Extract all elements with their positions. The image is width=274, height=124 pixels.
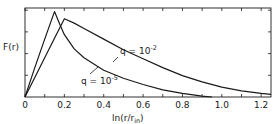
chart: 00.20.40.60.81.01.2 F(r) ln(r/rin) q = 1… [0, 0, 274, 124]
series-label-q5-base: q = 10 [81, 76, 112, 86]
x-tick-label: 0.2 [57, 100, 71, 110]
x-axis-label: ln(r/rin) [112, 113, 144, 124]
series-label-q5-exp: -5 [111, 74, 117, 82]
series-line-q-1e-5 [25, 12, 212, 97]
annotation-arrow-q5 [90, 67, 98, 74]
x-tick-label: 0.8 [175, 100, 190, 110]
series-label-q2-base: q = 10 [120, 46, 151, 56]
x-axis-label-close: ) [140, 113, 144, 123]
x-tick-label: 1.0 [215, 100, 230, 110]
series-label-q2-exp: -2 [150, 44, 156, 52]
x-tick-label: 0.4 [97, 100, 112, 110]
x-tick-label: 0.6 [136, 100, 151, 110]
x-tick-label: 1.2 [254, 100, 268, 110]
x-tick-label: 0 [22, 100, 28, 110]
series-label-q5: q = 10-5 [81, 74, 118, 86]
tick-label-group: 00.20.40.60.81.01.2 [22, 100, 268, 110]
annotation-arrow-q2 [113, 57, 118, 62]
y-axis-label: F(r) [3, 42, 19, 52]
x-axis-label-main: ln(r/r [112, 113, 134, 123]
series-label-q2: q = 10-2 [120, 44, 157, 56]
